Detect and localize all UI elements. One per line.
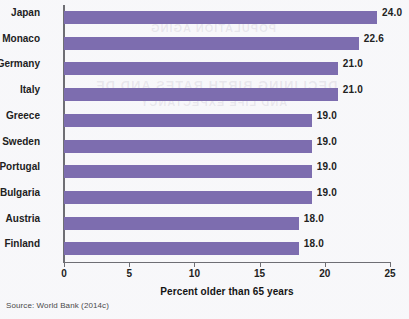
x-axis-tick — [260, 262, 261, 267]
source-note: Source: World Bank (2014c) — [6, 301, 109, 310]
bar-chart: Japan24.0Monaco22.6Germany21.0Italy21.0G… — [0, 0, 409, 319]
bar-row: Monaco22.6 — [64, 31, 390, 57]
category-label: Japan — [0, 7, 40, 18]
bar — [64, 165, 312, 178]
bar — [64, 37, 359, 50]
bar-value-label: 18.0 — [304, 213, 324, 224]
bar — [64, 62, 338, 75]
category-label: Austria — [0, 213, 40, 224]
bar-row: Bulgaria19.0 — [64, 185, 390, 211]
category-label: Germany — [0, 58, 40, 69]
category-label: Portugal — [0, 161, 40, 172]
bar-value-label: 21.0 — [343, 58, 363, 69]
bar-row: Greece19.0 — [64, 108, 390, 134]
bar-row: Austria18.0 — [64, 211, 390, 237]
bar-value-label: 24.0 — [382, 7, 402, 18]
bar-value-label: 18.0 — [304, 238, 324, 249]
x-axis-tick-label: 10 — [189, 268, 200, 279]
bar-row: Italy21.0 — [64, 82, 390, 108]
x-axis-tick-label: 5 — [126, 268, 132, 279]
bar-value-label: 19.0 — [317, 187, 337, 198]
bar-value-label: 19.0 — [317, 136, 337, 147]
x-axis-title: Percent older than 65 years — [64, 286, 390, 297]
category-label: Monaco — [0, 33, 40, 44]
x-axis-tick-label: 0 — [61, 268, 67, 279]
category-label: Sweden — [0, 136, 40, 147]
x-axis-tick-label: 15 — [254, 268, 265, 279]
x-axis-tick — [390, 262, 391, 267]
x-axis-tick-label: 25 — [384, 268, 395, 279]
bar — [64, 88, 338, 101]
bar — [64, 11, 377, 24]
bar-row: Japan24.0 — [64, 5, 390, 31]
category-label: Italy — [0, 84, 40, 95]
bar — [64, 191, 312, 204]
bar-row: Sweden19.0 — [64, 134, 390, 160]
bar — [64, 242, 299, 255]
bar-row: Finland18.0 — [64, 236, 390, 262]
bar — [64, 114, 312, 127]
category-label: Greece — [0, 110, 40, 121]
category-label: Bulgaria — [0, 187, 40, 198]
x-axis-tick-label: 20 — [319, 268, 330, 279]
bar-value-label: 21.0 — [343, 84, 363, 95]
bar — [64, 140, 312, 153]
x-axis-tick — [129, 262, 130, 267]
bar — [64, 217, 299, 230]
plot-area: Japan24.0Monaco22.6Germany21.0Italy21.0G… — [64, 5, 390, 262]
x-axis-tick — [64, 262, 65, 267]
x-axis-tick — [194, 262, 195, 267]
bar-value-label: 19.0 — [317, 161, 337, 172]
bar-value-label: 19.0 — [317, 110, 337, 121]
x-axis-line — [63, 262, 391, 263]
bar-value-label: 22.6 — [364, 33, 384, 44]
bar-row: Germany21.0 — [64, 56, 390, 82]
x-axis-tick — [325, 262, 326, 267]
bar-row: Portugal19.0 — [64, 159, 390, 185]
category-label: Finland — [0, 238, 40, 249]
